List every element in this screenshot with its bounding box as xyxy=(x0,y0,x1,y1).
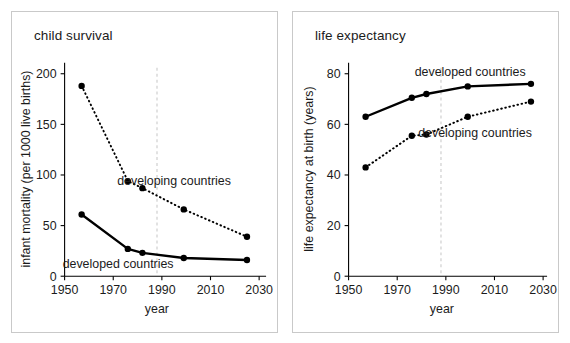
data-point xyxy=(78,83,84,89)
chart-panel-life-expectancy: life expectancy 020406080 19501970199020… xyxy=(292,11,559,333)
data-point xyxy=(139,250,145,256)
annotation-group: developed countriesdeveloping countries xyxy=(415,65,532,140)
figure-canvas: child survival 050100150200 195019701990… xyxy=(0,0,570,343)
data-point xyxy=(181,255,187,261)
y-tick-label: 60 xyxy=(327,118,341,132)
series-line-developing-countries xyxy=(82,86,247,237)
x-tick-group: 19501970199020102030 xyxy=(51,276,273,297)
y-tick-label: 20 xyxy=(327,219,341,233)
data-point xyxy=(423,91,429,97)
chart-panel-child-survival: child survival 050100150200 195019701990… xyxy=(11,11,278,333)
series-annotation: developed countries xyxy=(415,65,526,79)
data-point xyxy=(244,257,250,263)
y-axis-title: life expectancy at birth (years) xyxy=(302,86,316,251)
x-axis-title: year xyxy=(430,302,454,316)
data-point xyxy=(244,234,250,240)
data-point xyxy=(528,81,534,87)
y-tick-label: 100 xyxy=(36,168,57,182)
x-tick-label: 1990 xyxy=(432,283,460,297)
x-tick-label: 2030 xyxy=(245,283,273,297)
y-tick-label: 80 xyxy=(327,67,341,81)
annotation-group: developing countriesdeveloped countries xyxy=(63,174,231,271)
data-point xyxy=(125,246,131,252)
data-point xyxy=(362,164,368,170)
x-tick-label: 1970 xyxy=(99,283,127,297)
x-tick-label: 1990 xyxy=(148,283,176,297)
y-tick-label: 0 xyxy=(50,270,57,284)
data-point xyxy=(465,83,471,89)
y-tick-label: 50 xyxy=(43,219,57,233)
x-tick-label: 1950 xyxy=(335,283,363,297)
x-tick-group: 19501970199020102030 xyxy=(335,276,557,297)
data-point xyxy=(409,95,415,101)
data-point xyxy=(409,133,415,139)
data-point xyxy=(465,114,471,120)
series-annotation: developed countries xyxy=(63,257,174,271)
x-tick-label: 2030 xyxy=(529,283,557,297)
series-annotation: developing countries xyxy=(117,174,231,188)
y-tick-label: 150 xyxy=(36,118,57,132)
x-tick-label: 2010 xyxy=(197,283,225,297)
data-point xyxy=(181,206,187,212)
life-expectancy-plot: 020406080 19501970199020102030 developed… xyxy=(293,12,558,332)
x-tick-label: 1950 xyxy=(51,283,79,297)
series-line-developed-countries xyxy=(82,214,247,260)
data-point xyxy=(528,98,534,104)
y-tick-label: 0 xyxy=(334,270,341,284)
y-tick-label: 40 xyxy=(327,168,341,182)
series-group xyxy=(78,83,250,263)
x-tick-label: 2010 xyxy=(481,283,509,297)
child-survival-plot: 050100150200 19501970199020102030 develo… xyxy=(12,12,277,332)
data-point xyxy=(78,211,84,217)
x-axis-title: year xyxy=(145,302,169,316)
data-point xyxy=(362,114,368,120)
series-line-developed-countries xyxy=(366,84,531,117)
y-tick-group: 020406080 xyxy=(327,67,349,283)
y-axis-title: infant mortality (per 1000 live births) xyxy=(19,71,33,268)
y-tick-group: 050100150200 xyxy=(36,67,65,283)
series-annotation: developing countries xyxy=(418,126,532,140)
x-tick-label: 1970 xyxy=(383,283,411,297)
y-tick-label: 200 xyxy=(36,67,57,81)
